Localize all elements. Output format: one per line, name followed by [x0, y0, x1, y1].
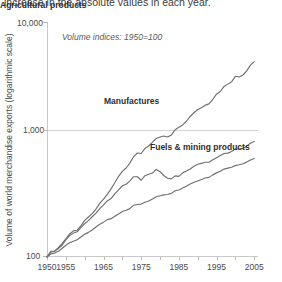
series-label-fuels-mining: Fuels & mining products: [150, 142, 250, 152]
series-curves: [0, 0, 282, 282]
curve-manufactures: [47, 62, 254, 257]
series-label-manufactures: Manufactures: [104, 96, 159, 106]
figure-root: increase in the absolute values in each …: [0, 0, 282, 282]
series-label-agricultural: Agricultural products: [0, 0, 86, 10]
